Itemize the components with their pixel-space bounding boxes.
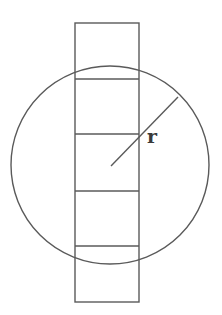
radius-line xyxy=(111,97,178,166)
circle xyxy=(11,66,209,264)
rectangle-dividers xyxy=(75,79,139,246)
radius-label: r xyxy=(147,125,158,147)
diagram-canvas: r xyxy=(0,0,222,315)
